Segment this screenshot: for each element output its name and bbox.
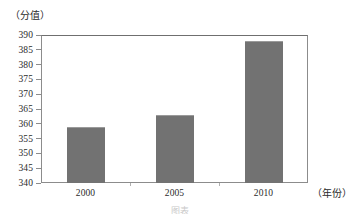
bars-group: [41, 35, 308, 183]
x-axis-unit-label: （年份）: [312, 188, 352, 200]
y-axis-tick: 385: [0, 44, 41, 56]
y-axis-tick: 380: [0, 59, 41, 71]
y-axis-tick-label: 385: [18, 44, 33, 56]
y-axis: 390385380375370365360355350345340: [0, 0, 41, 214]
y-axis-tick: 370: [0, 88, 41, 100]
y-axis-tick: 365: [0, 103, 41, 115]
y-axis-tick: 350: [0, 147, 41, 159]
y-axis-tick-label: 370: [18, 88, 33, 100]
y-axis-tick-label: 345: [18, 162, 33, 174]
y-axis-tick-label: 375: [18, 73, 33, 85]
y-axis-tick: 355: [0, 133, 41, 145]
bar: [67, 127, 105, 183]
x-axis: 200020052010: [41, 186, 308, 202]
bar: [156, 115, 194, 183]
x-axis-tick-label: 2010: [219, 186, 308, 200]
y-axis-tick-label: 355: [18, 133, 33, 145]
bottom-caption: 图表: [60, 206, 300, 214]
y-axis-tick-label: 360: [18, 118, 33, 130]
bar-chart: （分值） （年份） 390385380375370365360355350345…: [0, 0, 361, 214]
y-axis-tick-label: 365: [18, 103, 33, 115]
x-axis-tick-label: 2005: [130, 186, 219, 200]
y-axis-tick-label: 340: [18, 177, 33, 189]
y-axis-tick: 360: [0, 118, 41, 130]
y-axis-tick-label: 390: [18, 29, 33, 41]
bar: [245, 41, 283, 183]
y-axis-tick: 340: [0, 177, 41, 189]
y-axis-tick-label: 350: [18, 147, 33, 159]
y-axis-tick: 345: [0, 162, 41, 174]
y-axis-tick: 390: [0, 29, 41, 41]
y-axis-tick-label: 380: [18, 59, 33, 71]
y-axis-tick: 375: [0, 73, 41, 85]
x-axis-tick-label: 2000: [41, 186, 130, 200]
